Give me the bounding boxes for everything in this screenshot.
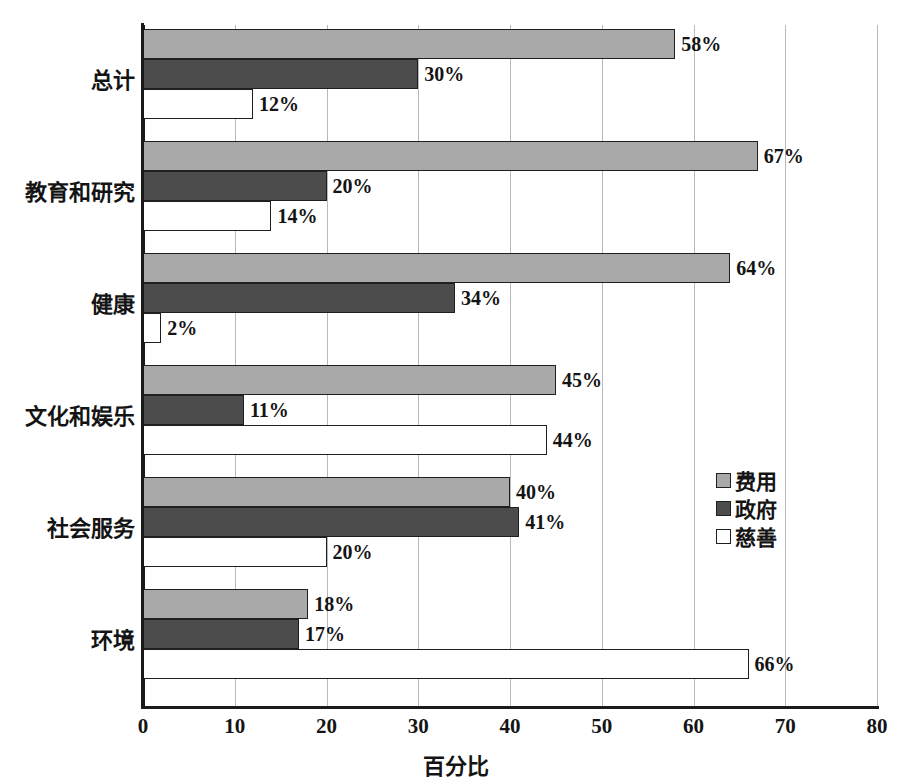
category-label: 总计 bbox=[0, 62, 135, 94]
bar-社会服务-慈善 bbox=[143, 537, 327, 567]
x-tick-label: 50 bbox=[572, 714, 632, 739]
category-label: 环境 bbox=[0, 622, 135, 654]
category-label: 社会服务 bbox=[0, 510, 135, 542]
bar-value-label: 14% bbox=[277, 201, 317, 231]
gridline bbox=[694, 25, 695, 707]
x-tick-label: 70 bbox=[755, 714, 815, 739]
y-axis-line bbox=[141, 23, 144, 709]
bar-总计-慈善 bbox=[143, 89, 253, 119]
bar-value-label: 18% bbox=[314, 589, 354, 619]
legend-item-label: 政府 bbox=[735, 493, 777, 523]
bar-value-label: 41% bbox=[525, 507, 565, 537]
bar-value-label: 12% bbox=[259, 89, 299, 119]
category-label: 文化和娱乐 bbox=[0, 398, 135, 430]
bar-健康-政府 bbox=[143, 283, 455, 313]
bar-value-label: 20% bbox=[333, 171, 373, 201]
legend-swatch-icon bbox=[716, 473, 731, 488]
bar-value-label: 34% bbox=[461, 283, 501, 313]
bar-value-label: 45% bbox=[562, 365, 602, 395]
bar-社会服务-政府 bbox=[143, 507, 519, 537]
bar-value-label: 66% bbox=[755, 649, 795, 679]
bar-社会服务-费用 bbox=[143, 477, 510, 507]
plot-area bbox=[143, 25, 877, 707]
x-tick-label: 10 bbox=[205, 714, 265, 739]
bar-chart: 0102030405060708058%30%12%总计67%20%14%教育和… bbox=[0, 0, 912, 784]
bar-总计-费用 bbox=[143, 29, 675, 59]
x-axis-line bbox=[141, 706, 879, 709]
bar-健康-慈善 bbox=[143, 313, 161, 343]
bar-value-label: 40% bbox=[516, 477, 556, 507]
category-label: 教育和研究 bbox=[0, 174, 135, 206]
x-tick-label: 80 bbox=[847, 714, 907, 739]
bar-环境-政府 bbox=[143, 619, 299, 649]
bar-value-label: 44% bbox=[553, 425, 593, 455]
legend-item-label: 慈善 bbox=[735, 521, 777, 551]
bar-value-label: 17% bbox=[305, 619, 345, 649]
x-tick-label: 20 bbox=[297, 714, 357, 739]
bar-教育和研究-政府 bbox=[143, 171, 327, 201]
bar-环境-慈善 bbox=[143, 649, 749, 679]
bar-value-label: 67% bbox=[764, 141, 804, 171]
bar-value-label: 11% bbox=[250, 395, 289, 425]
legend-item-government[interactable]: 政府 bbox=[716, 494, 777, 522]
bar-教育和研究-慈善 bbox=[143, 201, 271, 231]
bar-value-label: 20% bbox=[333, 537, 373, 567]
category-label: 健康 bbox=[0, 286, 135, 318]
bar-环境-费用 bbox=[143, 589, 308, 619]
bar-总计-政府 bbox=[143, 59, 418, 89]
x-tick-label: 0 bbox=[113, 714, 173, 739]
bar-value-label: 58% bbox=[681, 29, 721, 59]
x-tick-label: 60 bbox=[664, 714, 724, 739]
bar-健康-费用 bbox=[143, 253, 730, 283]
gridline bbox=[785, 25, 786, 707]
gridline bbox=[602, 25, 603, 707]
bar-value-label: 2% bbox=[167, 313, 197, 343]
bar-教育和研究-费用 bbox=[143, 141, 758, 171]
legend-item-charity[interactable]: 慈善 bbox=[716, 522, 777, 550]
legend-swatch-icon bbox=[716, 501, 731, 516]
x-tick-label: 30 bbox=[388, 714, 448, 739]
bar-value-label: 64% bbox=[736, 253, 776, 283]
bar-value-label: 30% bbox=[424, 59, 464, 89]
bar-文化和娱乐-政府 bbox=[143, 395, 244, 425]
legend-item-label: 费用 bbox=[735, 465, 777, 495]
bar-文化和娱乐-费用 bbox=[143, 365, 556, 395]
legend-item-expense[interactable]: 费用 bbox=[716, 466, 777, 494]
legend-swatch-icon bbox=[716, 529, 731, 544]
x-axis-title: 百分比 bbox=[0, 748, 912, 780]
x-tick-label: 40 bbox=[480, 714, 540, 739]
chart-legend: 费用 政府 慈善 bbox=[716, 466, 777, 550]
gridline bbox=[877, 25, 878, 707]
bar-文化和娱乐-慈善 bbox=[143, 425, 547, 455]
